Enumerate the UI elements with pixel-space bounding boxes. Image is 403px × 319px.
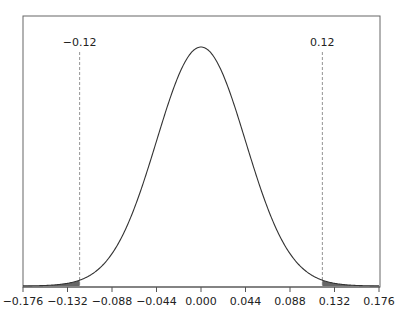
x-tick-label: 0.132	[319, 295, 351, 308]
upper-critical-label: 0.12	[310, 36, 335, 49]
x-tick-label: 0.000	[185, 295, 217, 308]
lower-critical-label: −0.12	[63, 36, 97, 49]
x-tick-label: 0.176	[363, 295, 395, 308]
x-tick-label: −0.176	[3, 295, 44, 308]
x-tick-label: 0.044	[230, 295, 262, 308]
plot-frame	[23, 16, 380, 287]
x-tick-label: −0.132	[47, 295, 88, 308]
x-tick-label: −0.088	[92, 295, 133, 308]
x-tick-label: −0.044	[136, 295, 177, 308]
x-axis-ticks: −0.176−0.132−0.088−0.0440.0000.0440.0880…	[3, 287, 395, 308]
x-tick-label: 0.088	[274, 295, 306, 308]
chart: −0.176−0.132−0.088−0.0440.0000.0440.0880…	[0, 0, 403, 319]
